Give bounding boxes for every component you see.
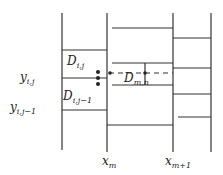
label-y-ij: yi,j	[19, 70, 35, 86]
label-x-m: xm	[102, 154, 117, 170]
dot	[96, 70, 100, 74]
label-y-ij-1: yi,j−1	[9, 100, 36, 116]
dot	[96, 76, 100, 80]
label-x-m1: xm+1	[165, 154, 191, 170]
label-D-ij: Di,j	[66, 54, 85, 70]
dot	[96, 82, 100, 86]
dot	[143, 71, 147, 75]
dot	[108, 71, 112, 75]
label-D-ij-1: Di,j−1	[62, 89, 92, 105]
grid-diagram: Di,j Di,j−1 Dm,n yi,j yi,j−1 xm xm+1	[0, 0, 223, 175]
